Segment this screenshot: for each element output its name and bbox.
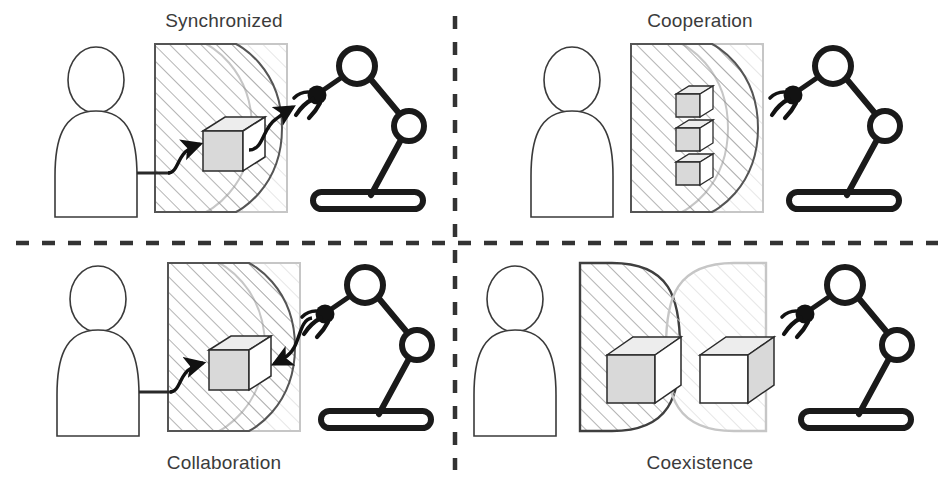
work-object-cube <box>700 337 774 403</box>
quadrant-cooperation <box>531 44 900 217</box>
diagram-canvas: Synchronized Cooperation Collaboration C… <box>0 0 952 495</box>
quadrant-label-cooperation: Cooperation <box>476 10 924 32</box>
quadrant-collaboration <box>57 263 432 436</box>
quadrant-label-collaboration: Collaboration <box>0 452 448 474</box>
human-figure <box>474 266 556 436</box>
quadrant-coexistence <box>474 263 912 436</box>
robot-arm <box>294 48 424 209</box>
robot-arm <box>302 267 432 428</box>
work-object-cube <box>676 120 713 151</box>
work-object-cube <box>209 336 271 390</box>
work-object-cube <box>607 337 681 403</box>
work-object-cube <box>203 117 265 171</box>
diagram-svg <box>0 0 952 495</box>
human-figure <box>57 266 139 436</box>
work-object-cube <box>676 154 713 185</box>
work-object-cube <box>676 86 713 117</box>
robot-arm <box>782 267 912 428</box>
human-figure <box>531 47 613 217</box>
quadrant-synchronized <box>55 44 424 217</box>
human-figure <box>55 47 137 217</box>
quadrant-label-coexistence: Coexistence <box>476 452 924 474</box>
robot-arm <box>770 48 900 209</box>
quadrant-label-synchronized: Synchronized <box>0 10 448 32</box>
